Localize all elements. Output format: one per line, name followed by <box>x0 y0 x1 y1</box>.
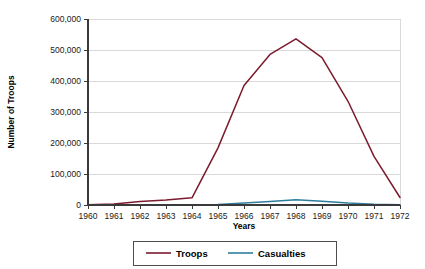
y-tick-label: 600,000 <box>50 14 81 24</box>
x-tick-label: 1964 <box>183 211 202 221</box>
y-tick-label: 200,000 <box>50 138 81 148</box>
x-tick-label: 1970 <box>339 211 358 221</box>
y-tick-label: 400,000 <box>50 76 81 86</box>
y-tick-label: 0 <box>76 200 81 210</box>
x-tick-label: 1972 <box>391 211 410 221</box>
legend-label-casualties: Casualties <box>258 248 306 259</box>
x-tick-label: 1963 <box>157 211 176 221</box>
y-tick-label: 300,000 <box>50 107 81 117</box>
x-tick-label: 1966 <box>235 211 254 221</box>
x-tick-label: 1971 <box>365 211 384 221</box>
x-axis-title: Years <box>233 221 256 231</box>
y-tick-label: 100,000 <box>50 169 81 179</box>
legend-label-troops: Troops <box>176 248 208 259</box>
x-tick-label: 1969 <box>313 211 332 221</box>
x-tick-label: 1967 <box>261 211 280 221</box>
chart-container: 0100,000200,000300,000400,000500,000600,… <box>0 0 425 269</box>
x-tick-label: 1960 <box>79 211 98 221</box>
chart-legend: Troops Casualties <box>133 241 336 265</box>
y-axis-title: Number of Troops <box>6 75 16 148</box>
x-tick-label: 1962 <box>131 211 150 221</box>
line-chart-figure: 0100,000200,000300,000400,000500,000600,… <box>0 0 425 269</box>
x-tick-label: 1968 <box>287 211 306 221</box>
x-tick-label: 1965 <box>209 211 228 221</box>
x-tick-label: 1961 <box>105 211 124 221</box>
y-tick-label: 500,000 <box>50 45 81 55</box>
